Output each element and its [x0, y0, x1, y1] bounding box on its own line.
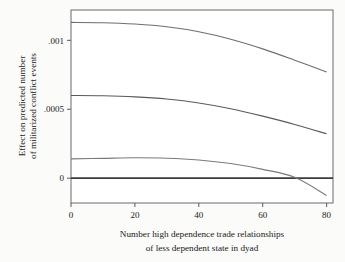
- x-axis-title-line2: of less dependent state in dyad: [146, 243, 259, 253]
- x-tick-label: 0: [69, 210, 74, 220]
- x-tick-label: 60: [258, 210, 268, 220]
- y-tick-label: .0005: [44, 104, 65, 114]
- chart-figure: 0.0005.001 020406080 Effect on predicted…: [0, 0, 345, 262]
- y-tick-label: .001: [48, 36, 64, 46]
- y-axis-title-line2: of militarized conflict events: [28, 53, 38, 159]
- x-tick-label: 20: [130, 210, 140, 220]
- x-tick-label: 80: [322, 210, 332, 220]
- plot-area-background: [71, 10, 333, 203]
- y-tick-label: 0: [60, 173, 65, 183]
- x-tick-label: 40: [194, 210, 204, 220]
- y-axis-title-line1: Effect on predicted number: [17, 56, 27, 157]
- x-axis-title-line1: Number high dependence trade relationshi…: [120, 229, 285, 239]
- chart-canvas: 0.0005.001 020406080 Effect on predicted…: [0, 0, 345, 262]
- y-axis-title: Effect on predicted number of militarize…: [17, 53, 38, 159]
